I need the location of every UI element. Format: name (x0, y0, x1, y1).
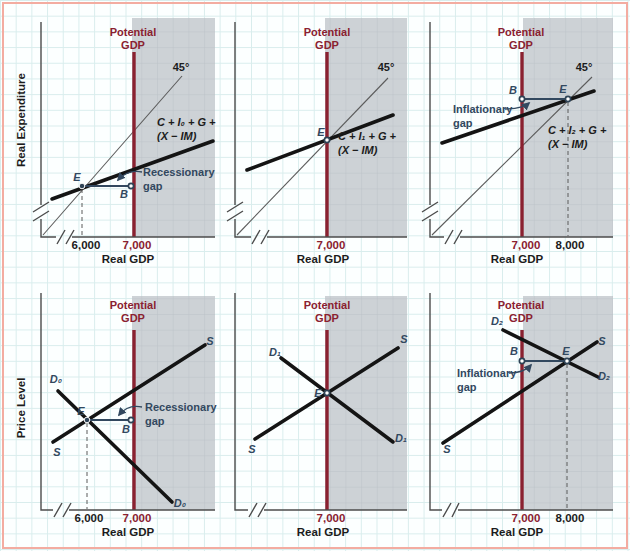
recessionary-gap-label-line2: gap (143, 180, 163, 192)
point-e-label: E (314, 387, 322, 399)
potential-gdp-label-line1: Potential (110, 26, 156, 38)
point-b-label: B (122, 423, 130, 435)
point-e-label: E (73, 171, 81, 183)
diagram-svg: Real Expenditure Potential GDP 45° C + I… (0, 0, 630, 551)
axis-break-marks (249, 503, 266, 517)
potential-gdp-label-line1: Potential (110, 299, 156, 311)
potential-gdp-label-line2: GDP (509, 39, 533, 51)
potential-gdp-label-line2: GDP (121, 312, 145, 324)
point-b-dot (519, 96, 524, 101)
point-e-label: E (317, 126, 325, 138)
expenditure-curve-label-line2: (X − IM) (157, 130, 197, 142)
tick-8000: 8,000 (556, 512, 585, 524)
inflationary-gap-label-line2: gap (453, 117, 473, 129)
point-e-dot (79, 183, 85, 189)
point-e-label: E (559, 83, 567, 95)
x-axis-title: Real GDP (102, 253, 155, 265)
supply-label-upper: S (206, 335, 214, 347)
expenditure-curve-label-line1: C + I₀ + G + (157, 116, 216, 128)
point-e-dot (324, 137, 329, 142)
supply-label-lower: S (53, 446, 61, 458)
tick-8000: 8,000 (556, 239, 585, 251)
supply-label-upper: S (598, 335, 606, 347)
potential-gdp-label-line2: GDP (315, 312, 339, 324)
point-b-dot (128, 417, 133, 422)
y-axis-title: Price Level (15, 378, 27, 439)
point-b-label: B (510, 345, 518, 357)
x-axis-title: Real GDP (491, 526, 544, 538)
point-e-dot (565, 96, 570, 101)
axis-break-marks (443, 503, 459, 517)
shaded-region (523, 296, 613, 510)
point-e-label: E (77, 405, 85, 417)
point-e-dot (324, 390, 329, 395)
axis-break-marks (54, 503, 71, 517)
potential-gdp-label-line1: Potential (304, 26, 350, 38)
tick-7000: 7,000 (512, 512, 541, 524)
point-b-dot (519, 358, 524, 363)
tick-6000: 6,000 (72, 239, 101, 251)
demand-label-upper: D₁ (269, 346, 281, 358)
tick-7000: 7,000 (512, 239, 541, 251)
point-b-label: B (509, 84, 517, 96)
point-b-label: B (120, 188, 128, 200)
expenditure-curve-label-line2: (X − IM) (338, 144, 378, 156)
point-e-dot (84, 417, 90, 423)
figure-canvas: Real Expenditure Potential GDP 45° C + I… (0, 0, 630, 551)
shaded-region (325, 296, 407, 510)
potential-gdp-label-line1: Potential (498, 26, 544, 38)
potential-gdp-label-line2: GDP (315, 39, 339, 51)
supply-label-lower: S (443, 443, 451, 455)
angle-45-label: 45° (378, 61, 395, 73)
panel-top-left: Real Expenditure Potential GDP 45° C + I… (15, 18, 216, 265)
potential-gdp-label-line2: GDP (121, 39, 145, 51)
demand-label-lower: D₀ (174, 497, 186, 509)
inflationary-gap-label-line1: Inflationary (457, 367, 517, 379)
potential-gdp-label-line2: GDP (509, 312, 533, 324)
point-e-dot (564, 358, 569, 363)
demand-label-upper: D₂ (491, 315, 503, 327)
point-e-label: E (562, 345, 570, 357)
panel-bottom-left: Price Level Potential GDP D₀ D₀ S S E B … (15, 293, 217, 538)
expenditure-curve-label-line2: (X − IM) (548, 138, 588, 150)
x-axis-title: Real GDP (297, 526, 350, 538)
panel-bottom-middle: Potential GDP D₁ D₁ S S E 7,000 Real GDP (235, 293, 408, 538)
inflationary-gap-label-line1: Inflationary (453, 103, 513, 115)
tick-6000: 6,000 (75, 512, 104, 524)
supply-label-upper: S (400, 333, 408, 345)
demand-label-lower: D₁ (395, 432, 407, 444)
recessionary-gap-label-line1: Recessionary (143, 166, 215, 178)
expenditure-curve-label-line1: C + I₁ + G + (338, 130, 397, 142)
recessionary-gap-label-line1: Recessionary (145, 401, 217, 413)
potential-gdp-label-line1: Potential (304, 299, 350, 311)
x-axis-title: Real GDP (491, 253, 544, 265)
tick-7000: 7,000 (317, 512, 346, 524)
supply-label-lower: S (248, 443, 256, 455)
inflationary-gap-label-line2: gap (457, 381, 477, 393)
demand-label-upper: D₀ (50, 373, 62, 385)
expenditure-curve-label-line1: C + I₂ + G + (548, 124, 607, 136)
demand-label-lower: D₂ (598, 370, 610, 382)
tick-7000: 7,000 (317, 239, 346, 251)
x-axis-title: Real GDP (102, 526, 155, 538)
x-axis-title: Real GDP (297, 253, 350, 265)
recessionary-gap-label-line2: gap (145, 415, 165, 427)
panel-top-middle: Potential GDP 45° E C + I₁ + G + (X − IM… (227, 18, 407, 265)
angle-45-label: 45° (576, 61, 593, 73)
y-axis-title: Real Expenditure (15, 73, 27, 167)
panel-bottom-right: Potential GDP D₂ D₂ S S B E Inflationary… (430, 293, 613, 538)
tick-7000: 7,000 (123, 239, 152, 251)
panel-top-right: Potential GDP 45° B E Inflationary gap C… (422, 18, 613, 265)
angle-45-label: 45° (173, 61, 190, 73)
potential-gdp-label-line1: Potential (498, 299, 544, 311)
tick-7000: 7,000 (123, 512, 152, 524)
point-b-dot (128, 183, 133, 188)
